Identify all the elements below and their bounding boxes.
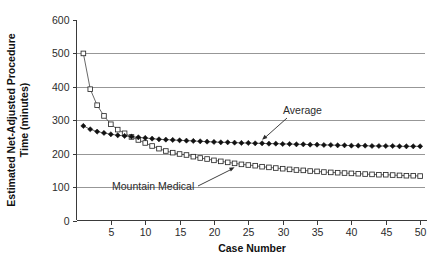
data-point-mountain-medical xyxy=(356,171,361,176)
data-point-average xyxy=(177,138,182,143)
data-point-mountain-medical xyxy=(280,166,285,171)
data-point-mountain-medical xyxy=(170,150,175,155)
x-tick-label-35: 35 xyxy=(312,226,324,238)
x-tick-label-20: 20 xyxy=(209,226,221,238)
data-point-average xyxy=(287,141,292,146)
data-point-average xyxy=(369,143,374,148)
data-point-mountain-medical xyxy=(115,127,120,132)
data-point-average xyxy=(198,139,203,144)
data-point-mountain-medical xyxy=(102,114,107,119)
data-point-mountain-medical xyxy=(383,172,388,177)
y-axis-tick-labels: 0100200300400500600 xyxy=(52,14,70,227)
data-point-mountain-medical xyxy=(232,161,237,166)
data-point-mountain-medical xyxy=(260,164,265,169)
data-point-average xyxy=(204,139,209,144)
data-point-average xyxy=(266,141,271,146)
data-point-mountain-medical xyxy=(184,153,189,158)
data-point-mountain-medical xyxy=(143,141,148,146)
annotation-mountain-medical-label: Mountain Medical xyxy=(112,180,194,192)
data-point-average xyxy=(314,142,319,147)
data-point-average xyxy=(95,129,100,134)
data-point-average xyxy=(218,140,223,145)
data-point-mountain-medical xyxy=(253,163,258,168)
data-point-average xyxy=(156,137,161,142)
data-point-average xyxy=(232,140,237,145)
y-tick-label-0: 0 xyxy=(64,215,70,227)
y-axis-title: Estimated Net-Adjusted Procedure Time (m… xyxy=(5,33,30,206)
data-point-average xyxy=(184,138,189,143)
data-point-average xyxy=(88,127,93,132)
data-point-average xyxy=(335,143,340,148)
data-point-mountain-medical xyxy=(246,163,251,168)
series-mountain-medical xyxy=(81,51,422,178)
series-average xyxy=(81,123,423,149)
data-point-average xyxy=(115,133,120,138)
data-point-mountain-medical xyxy=(274,166,279,171)
data-point-mountain-medical xyxy=(157,146,162,151)
data-point-mountain-medical xyxy=(219,159,224,164)
data-point-mountain-medical xyxy=(294,168,299,173)
data-point-mountain-medical xyxy=(322,170,327,175)
x-axis xyxy=(77,221,428,225)
data-point-mountain-medical xyxy=(164,149,169,154)
data-point-average xyxy=(81,123,86,128)
data-point-mountain-medical xyxy=(109,122,114,127)
data-point-average xyxy=(342,143,347,148)
data-point-average xyxy=(280,141,285,146)
y-axis-title-line-2: Time (minutes) xyxy=(18,83,30,157)
data-point-mountain-medical xyxy=(225,160,230,165)
data-point-mountain-medical xyxy=(342,171,347,176)
data-point-average xyxy=(108,132,113,137)
x-axis-title: Case Number xyxy=(218,242,286,254)
data-point-average xyxy=(363,143,368,148)
x-tick-label-50: 50 xyxy=(415,226,427,238)
x-tick-label-10: 10 xyxy=(140,226,152,238)
x-tick-label-40: 40 xyxy=(346,226,358,238)
y-tick-label-100: 100 xyxy=(52,181,70,193)
annotation-average: Average xyxy=(262,104,322,140)
procedure-time-line-chart: 0100200300400500600 5101520253035404550 … xyxy=(0,0,446,279)
data-point-average xyxy=(246,140,251,145)
data-point-average xyxy=(376,143,381,148)
data-point-mountain-medical xyxy=(95,103,100,108)
y-tick-label-300: 300 xyxy=(52,114,70,126)
data-point-mountain-medical xyxy=(349,171,354,176)
data-point-mountain-medical xyxy=(404,173,409,178)
data-point-mountain-medical xyxy=(177,152,182,157)
data-point-average xyxy=(253,141,258,146)
x-tick-label-5: 5 xyxy=(109,226,115,238)
y-axis xyxy=(73,20,77,222)
data-point-average xyxy=(225,140,230,145)
data-point-mountain-medical xyxy=(418,174,423,179)
data-point-mountain-medical xyxy=(81,51,86,56)
data-point-average xyxy=(294,142,299,147)
data-point-average xyxy=(321,142,326,147)
data-point-average xyxy=(418,144,423,149)
y-axis-title-line-1: Estimated Net-Adjusted Procedure xyxy=(5,33,17,206)
x-axis-tick-labels: 5101520253035404550 xyxy=(109,226,427,238)
data-point-average xyxy=(404,144,409,149)
data-point-mountain-medical xyxy=(370,172,375,177)
data-point-average xyxy=(259,141,264,146)
annotation-mountain-medical: Mountain Medical xyxy=(112,167,235,192)
data-point-mountain-medical xyxy=(390,173,395,178)
data-point-mountain-medical xyxy=(191,154,196,159)
data-point-mountain-medical xyxy=(411,173,416,178)
data-point-average xyxy=(150,136,155,141)
data-point-average xyxy=(349,143,354,148)
data-point-average xyxy=(301,142,306,147)
y-tick-label-500: 500 xyxy=(52,47,70,59)
data-point-mountain-medical xyxy=(287,167,292,172)
data-point-average xyxy=(390,143,395,148)
data-point-average xyxy=(356,143,361,148)
data-point-average xyxy=(163,137,168,142)
data-point-mountain-medical xyxy=(397,173,402,178)
x-tick-label-15: 15 xyxy=(175,226,187,238)
data-point-mountain-medical xyxy=(212,158,217,163)
data-point-average xyxy=(383,143,388,148)
data-point-mountain-medical xyxy=(267,165,272,170)
data-point-average xyxy=(397,144,402,149)
data-point-average xyxy=(101,130,106,135)
data-point-average xyxy=(411,144,416,149)
x-tick-label-25: 25 xyxy=(243,226,255,238)
